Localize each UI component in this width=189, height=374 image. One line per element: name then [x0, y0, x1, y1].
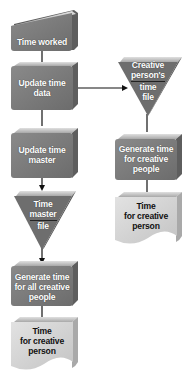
label-line: for creative [112, 154, 180, 164]
flowchart-canvas [0, 0, 189, 374]
label-time-master-file: Time master file [14, 199, 72, 231]
label-line: Update time [11, 145, 73, 155]
label-update-time-master: Update time master [11, 145, 73, 165]
label-output-right: Time for creative person [115, 201, 177, 231]
label-output-left: Time for creative person [11, 326, 73, 356]
label-line: Creative [118, 60, 178, 70]
label-line: Time [14, 199, 72, 209]
label-line: master [11, 155, 73, 165]
label-line: for all creative [8, 282, 76, 292]
label-line: Time [115, 201, 177, 211]
arrowhead-down-masterfile [39, 185, 45, 191]
label-line: person [11, 346, 73, 356]
label-line: Update time [11, 78, 73, 88]
label-line: time [118, 82, 178, 92]
label-line: data [11, 88, 73, 98]
label-update-time-data: Update time data [11, 78, 73, 98]
label-line: for creative [11, 336, 73, 346]
label-line: person [115, 221, 177, 231]
label-text: Time worked [17, 37, 67, 47]
label-time-worked: Time worked [11, 37, 73, 47]
label-line: people [112, 164, 180, 174]
label-line: file [118, 92, 178, 102]
label-creative-file: Creative person's time file [118, 60, 178, 102]
label-line: master [30, 209, 57, 221]
label-line: person's [131, 70, 165, 82]
label-line: Time [11, 326, 73, 336]
label-line: for creative [115, 211, 177, 221]
label-line: Generate time [112, 144, 180, 154]
label-line: people [8, 292, 76, 302]
label-generate-all: Generate time for all creative people [8, 272, 76, 302]
label-line: Generate time [8, 272, 76, 282]
label-line: file [14, 221, 72, 231]
label-generate-creative: Generate time for creative people [112, 144, 180, 174]
